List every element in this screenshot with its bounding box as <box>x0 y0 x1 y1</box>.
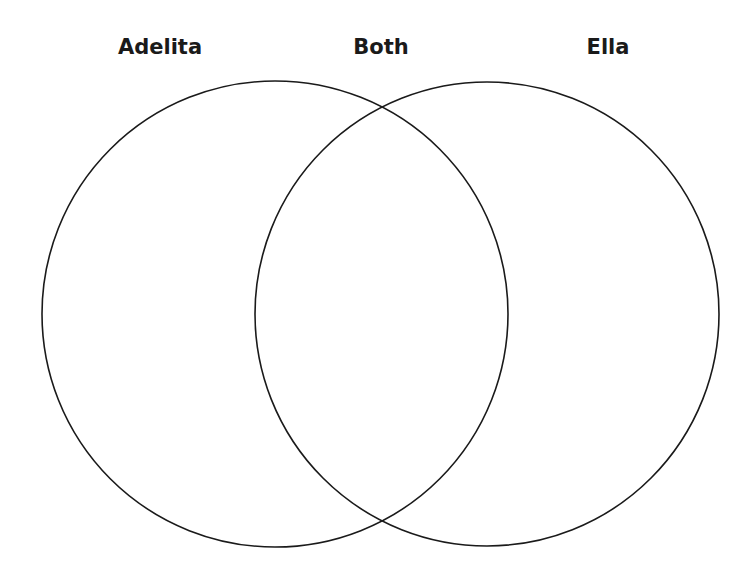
venn-circles <box>0 0 756 579</box>
venn-diagram: Adelita Both Ella <box>0 0 756 579</box>
circle-adelita <box>42 81 508 547</box>
circle-ella <box>255 82 719 546</box>
